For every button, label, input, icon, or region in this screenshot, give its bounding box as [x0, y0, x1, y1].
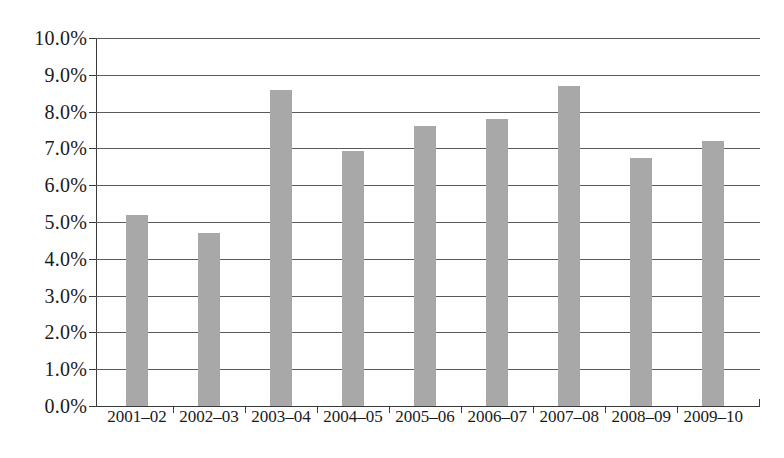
y-axis-tick — [89, 259, 96, 260]
x-axis-label-2001-02: 2001–02 — [107, 408, 167, 425]
x-axis-label-2006-07: 2006–07 — [467, 408, 527, 425]
bar-2004-05[interactable] — [342, 151, 364, 406]
y-axis-label: 1.0% — [45, 359, 87, 379]
x-axis-end-tick — [759, 399, 760, 406]
x-axis-tick — [677, 406, 678, 413]
y-axis-label: 5.0% — [45, 212, 87, 232]
y-axis-tick — [89, 112, 96, 113]
bar-2005-06[interactable] — [414, 126, 436, 406]
x-axis-tick — [245, 406, 246, 413]
x-axis-label-2004-05: 2004–05 — [323, 408, 383, 425]
y-axis-label: 4.0% — [45, 249, 87, 269]
y-axis-label: 6.0% — [45, 175, 87, 195]
x-axis-tick — [461, 406, 462, 413]
x-axis-tick — [605, 406, 606, 413]
y-axis-tick — [89, 185, 96, 186]
y-axis-tick — [89, 296, 96, 297]
y-axis-tick — [89, 369, 96, 370]
y-axis-tick — [89, 148, 96, 149]
x-axis-tick — [317, 406, 318, 413]
x-axis-label-2007-08: 2007–08 — [539, 408, 599, 425]
x-axis-label-2005-06: 2005–06 — [395, 408, 455, 425]
x-axis-label-2003-04: 2003–04 — [251, 408, 311, 425]
y-axis-label: 3.0% — [45, 286, 87, 306]
bar-2007-08[interactable] — [558, 86, 580, 406]
y-axis-label: 0.0% — [45, 396, 87, 416]
x-axis-tick — [389, 406, 390, 413]
bar-2001-02[interactable] — [126, 215, 148, 406]
y-axis-label: 9.0% — [45, 65, 87, 85]
y-axis-tick — [89, 75, 96, 76]
y-axis-tick — [89, 406, 96, 407]
y-axis-label: 7.0% — [45, 138, 87, 158]
plot-area — [96, 38, 760, 406]
x-axis-label-2008-09: 2008–09 — [611, 408, 671, 425]
x-axis-label-2009-10: 2009–10 — [683, 408, 743, 425]
y-axis-label: 2.0% — [45, 322, 87, 342]
y-axis-tick — [89, 332, 96, 333]
gridline-80 — [96, 112, 760, 113]
gridline-90 — [96, 75, 760, 76]
x-axis-tick — [173, 406, 174, 413]
bar-2003-04[interactable] — [270, 90, 292, 406]
x-axis-label-2002-03: 2002–03 — [179, 408, 239, 425]
gridline-100 — [96, 38, 760, 39]
x-axis-tick — [533, 406, 534, 413]
y-axis-tick — [89, 38, 96, 39]
y-axis-label: 10.0% — [34, 28, 87, 48]
bar-2009-10[interactable] — [702, 141, 724, 406]
bar-2002-03[interactable] — [198, 233, 220, 406]
bar-2006-07[interactable] — [486, 119, 508, 406]
bar-2008-09[interactable] — [630, 158, 652, 406]
bar-chart-figure: 0.0%1.0%2.0%3.0%4.0%5.0%6.0%7.0%8.0%9.0%… — [0, 0, 784, 458]
y-axis-label: 8.0% — [45, 102, 87, 122]
y-axis-tick — [89, 222, 96, 223]
